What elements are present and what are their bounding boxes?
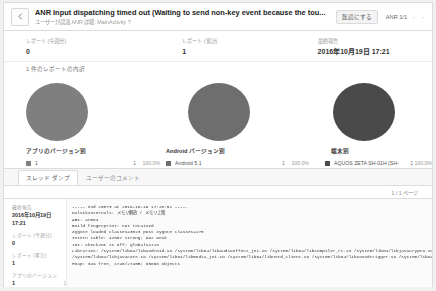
stat-reports-total: レポート (累計) 1	[160, 37, 309, 57]
page-header: ANR Input dispatching timed out (Waiting…	[3, 2, 433, 31]
stat-last-report: 最終報告 2016年10月19日 17:21	[310, 37, 432, 57]
legend-swatch	[26, 161, 31, 166]
stat-label: 最終報告	[318, 37, 432, 45]
stat-value: 2016年10月19日 17:21	[318, 46, 432, 57]
stacktrace-text: ----- end 25873 at 2016-10-19 17:20:52 -…	[72, 204, 429, 267]
stat-value: 1	[182, 46, 309, 57]
record-nav: ‹ ›	[413, 14, 424, 20]
page-indicator: 1 / 1 ページ	[391, 189, 418, 196]
chart-legend-item: AQUOS ZETA SH-01H (SH-01H) 1 100.0%	[325, 160, 432, 166]
tab-user-comments[interactable]: ユーザーのコメント	[78, 170, 148, 185]
legend-count: 1	[120, 160, 136, 166]
pager-row: 1 / 1 ページ	[3, 186, 433, 199]
pie-chart	[26, 83, 88, 141]
chart-legend-item: 1 1 100.0%	[26, 160, 160, 166]
chart-title: Android バージョン別	[166, 147, 309, 156]
legend-percent: 100.0%	[136, 160, 160, 166]
stacktrace-pane[interactable]: ----- end 25873 at 2016-10-19 17:20:52 -…	[66, 199, 432, 291]
legend-count: 1	[399, 160, 413, 166]
legend-label: Android 5.1	[175, 160, 269, 166]
legend-count: 1	[269, 160, 285, 166]
charts-row: アプリのバージョン別 1 1 100.0% Android バージョン別 And…	[4, 77, 432, 168]
anr-detail-page: ANR Input dispatching timed out (Waiting…	[0, 2, 436, 291]
pie-chart	[333, 83, 395, 141]
legend-percent: 100.0%	[285, 160, 309, 166]
report-meta-column: 最終報告 2016年10月19日 17:21 レポート (今週分) 0 レポート…	[4, 199, 66, 291]
stat-label: レポート (今週分)	[26, 37, 160, 45]
legend-label: 1	[35, 160, 120, 166]
page-bottom-spacer	[3, 287, 433, 291]
chart-device: 端末別 AQUOS ZETA SH-01H (SH-01H) 1 100.0%	[309, 83, 432, 166]
detail-label: 最終報告	[12, 204, 66, 211]
chart-android-version: Android バージョン別 Android 5.1 1 100.0%	[160, 83, 309, 166]
mark-as-read-button[interactable]: 既読にする	[336, 10, 378, 24]
chart-app-version: アプリのバージョン別 1 1 100.0%	[4, 83, 160, 166]
stat-reports-this-week: レポート (今週分) 0	[4, 37, 160, 57]
back-button[interactable]	[11, 8, 29, 26]
detail-reports-week: レポート (今週分) 0	[12, 232, 66, 247]
detail-label: アプリのバージョン	[12, 272, 66, 279]
breakdown-title: 1 件のレポートの内訳	[4, 62, 432, 77]
page-subtitle: ユーザーが認識 ANR 詳細: MainActivity ?	[35, 18, 336, 26]
stats-row: レポート (今週分) 0 レポート (累計) 1 最終報告 2016年10月19…	[4, 37, 432, 61]
legend-label: AQUOS ZETA SH-01H (SH-01H)	[334, 160, 399, 166]
page-title: ANR Input dispatching timed out (Waiting…	[35, 8, 336, 17]
detail-value: 1	[12, 259, 66, 267]
summary-card: レポート (今週分) 0 レポート (累計) 1 最終報告 2016年10月19…	[3, 31, 433, 169]
next-record-button[interactable]: ›	[422, 14, 424, 20]
detail-app-version: アプリのバージョン 1 1	[12, 272, 66, 287]
report-detail-panel: 最終報告 2016年10月19日 17:21 レポート (今週分) 0 レポート…	[3, 199, 433, 291]
legend-swatch	[166, 161, 171, 166]
detail-label: レポート (今週分)	[12, 232, 66, 239]
pie-chart	[188, 83, 250, 141]
prev-record-button[interactable]: ‹	[413, 14, 415, 20]
chart-legend-item: Android 5.1 1 100.0%	[166, 160, 309, 166]
stat-label: レポート (累計)	[182, 37, 309, 45]
detail-label: レポート (累計)	[12, 252, 66, 259]
stat-value: 0	[26, 46, 160, 57]
chart-title: 端末別	[331, 147, 432, 156]
header-titles: ANR Input dispatching timed out (Waiting…	[35, 8, 336, 26]
detail-last-report: 最終報告 2016年10月19日 17:21	[12, 204, 66, 227]
legend-percent: 100.0%	[413, 160, 432, 166]
tab-thread-dump[interactable]: スレッド ダンプ	[18, 170, 78, 185]
anr-counter: ANR 1/1	[386, 14, 407, 20]
chart-title: アプリのバージョン別	[26, 147, 160, 156]
legend-swatch	[325, 161, 330, 166]
detail-value-row: 1 1	[12, 279, 66, 287]
detail-reports-total: レポート (累計) 1	[12, 252, 66, 267]
detail-value: 0	[12, 239, 66, 247]
tab-bar: スレッド ダンプ ユーザーのコメント	[3, 169, 433, 186]
detail-value: 2016年10月19日 17:21	[12, 211, 66, 227]
detail-value: 1	[12, 279, 63, 287]
